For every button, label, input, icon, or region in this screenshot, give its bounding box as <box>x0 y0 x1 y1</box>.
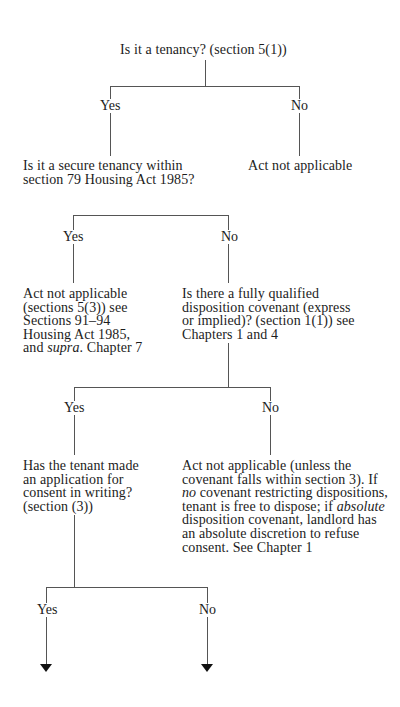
no-label: No <box>198 603 217 617</box>
connector <box>110 86 111 156</box>
no-covenant-outcome: Act not applicable (unless thecovenant f… <box>182 459 388 554</box>
no-label: No <box>220 230 239 244</box>
root-question: Is it a tenancy? (section 5(1)) <box>120 43 287 57</box>
connector <box>46 587 47 665</box>
yes-label: Yes <box>36 603 58 617</box>
yes-label: Yes <box>63 401 85 415</box>
yes-label: Yes <box>99 99 121 113</box>
secure-tenancy-question: Is it a secure tenancy withinsection 79 … <box>23 159 195 186</box>
connector <box>228 215 229 283</box>
connector <box>74 387 271 388</box>
connector <box>74 515 75 587</box>
connector <box>205 60 206 87</box>
yes-label: Yes <box>62 230 84 244</box>
italic-text: supra <box>47 340 79 355</box>
connector <box>207 587 208 665</box>
no-label: No <box>261 401 280 415</box>
written-application-question: Has the tenant madean application forcon… <box>23 459 139 513</box>
text-line: . Chapter 7 <box>80 340 143 355</box>
act-not-applicable-node: Act not applicable <box>248 159 352 173</box>
connector <box>228 343 229 387</box>
connector <box>46 587 208 588</box>
no-label: No <box>290 99 309 113</box>
text-line: (section (3)) <box>23 499 93 514</box>
secure-tenancy-outcome: Act not applicable(sections 5(3)) seeSec… <box>23 287 142 355</box>
connector <box>74 387 75 455</box>
connector <box>110 86 300 87</box>
arrow-down-icon <box>40 664 52 672</box>
text-line: and <box>23 340 47 355</box>
connector <box>73 215 229 216</box>
text-line: Chapters 1 and 4 <box>182 327 278 342</box>
arrow-down-icon <box>201 664 213 672</box>
text-line: section 79 Housing Act 1985? <box>23 172 195 187</box>
disposition-covenant-question: Is there a fully qualifieddisposition co… <box>182 287 355 341</box>
connector <box>73 215 74 283</box>
connector <box>270 387 271 455</box>
text-line: consent. See Chapter 1 <box>182 540 313 555</box>
connector <box>299 86 300 156</box>
